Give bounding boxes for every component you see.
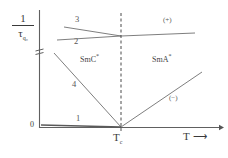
curve-3-label: 3 [75,15,79,24]
curve-4-label: 4 [72,80,76,89]
x-axis-label-arrow-icon: ⟶ [193,131,207,142]
phase-diagram-figure: 1 τq₀ 0 3 2 4 1 SmC* SmA* (+) (−) Tc T⟶ [0,0,228,158]
curve-2-label: 2 [74,37,78,46]
x-axis-label: T⟶ [183,131,207,142]
tc-axis-tick-label: Tc [113,132,122,145]
y-axis-label-numerator: 1 [6,13,40,25]
curve-4-line [54,53,121,127]
phase-label-sma: SmA* [152,53,171,64]
sign-negative-label: (−) [169,95,178,102]
y-origin-tick-label: 0 [30,121,34,129]
curve-1-label: 1 [76,114,80,123]
curve-minus-line [121,72,202,127]
y-axis-label: 1 τq₀ [6,13,40,45]
y-axis-label-denominator: τq₀ [6,26,40,45]
curve-1-line [41,125,121,127]
phase-label-smc: SmC* [80,53,99,64]
x-axis-arrow-icon [219,125,224,130]
sign-positive-label: (+) [163,17,172,24]
curve-3-line [64,27,121,36]
